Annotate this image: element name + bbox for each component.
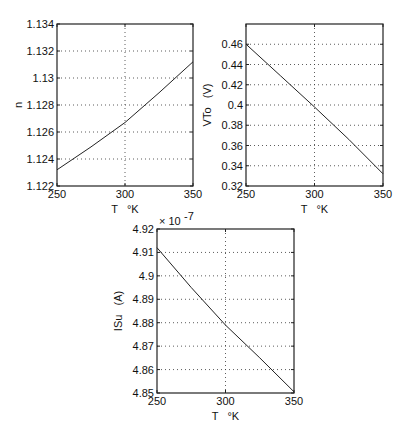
y-tick-label: 0.38 — [222, 119, 243, 131]
y-tick-label: 1.124 — [26, 153, 54, 165]
x-tick-label: 350 — [184, 188, 202, 200]
y-tick-label: 0.4 — [228, 99, 243, 111]
y-tick-label: 4.87 — [133, 340, 154, 352]
y-tick-label: 0.44 — [222, 59, 243, 71]
y-tick-label: 1.122 — [26, 180, 54, 192]
y-tick-label: 1.132 — [26, 45, 54, 57]
y-tick-label: 1.13 — [33, 72, 54, 84]
y-tick-label: 4.89 — [133, 293, 154, 305]
y-tick-label: 4.9 — [139, 270, 154, 282]
y-tick-label: 4.88 — [133, 317, 154, 329]
plot-n-vs-temperature: 2503003501.1221.1241.1261.1281.131.1321.… — [12, 18, 202, 215]
exponent-label: × 10 — [159, 215, 181, 227]
y-axis-label: VTo (V) — [201, 84, 213, 127]
y-axis-label: ISu (A) — [112, 291, 124, 331]
y-tick-label: 0.42 — [222, 79, 243, 91]
y-tick-label: 4.91 — [133, 246, 154, 258]
plot-isu-vs-temperature: 2503003504.854.864.874.884.894.94.914.92… — [112, 210, 303, 422]
y-tick-label: 1.126 — [26, 126, 54, 138]
figure-canvas: 2503003501.1221.1241.1261.1281.131.1321.… — [0, 0, 405, 432]
y-tick-label: 4.92 — [133, 223, 154, 235]
plot-vto-vs-temperature: 2503003500.320.340.360.380.40.420.440.46… — [201, 24, 392, 215]
y-tick-label: 1.134 — [26, 18, 54, 30]
y-axis-label: n — [12, 102, 24, 108]
y-tick-label: 4.85 — [133, 387, 154, 399]
x-tick-label: 350 — [374, 188, 392, 200]
exponent-power: -7 — [184, 210, 194, 222]
y-tick-label: 0.32 — [222, 180, 243, 192]
y-tick-label: 0.46 — [222, 38, 243, 50]
y-tick-label: 1.128 — [26, 99, 54, 111]
x-axis-label: T °K — [111, 203, 139, 215]
x-tick-label: 300 — [216, 395, 234, 407]
x-tick-label: 300 — [116, 188, 134, 200]
y-tick-label: 0.36 — [222, 140, 243, 152]
x-tick-label: 300 — [305, 188, 323, 200]
x-axis-label: T °K — [212, 410, 240, 422]
x-axis-label: T °K — [301, 203, 329, 215]
y-tick-label: 0.34 — [222, 160, 243, 172]
x-tick-label: 350 — [285, 395, 303, 407]
y-tick-label: 4.86 — [133, 364, 154, 376]
